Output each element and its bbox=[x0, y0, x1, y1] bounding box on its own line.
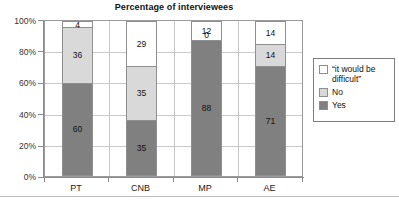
bar-label-cnb-no: 35 bbox=[137, 89, 146, 98]
bar-label-ae-no: 14 bbox=[266, 51, 275, 60]
legend-label-no: No bbox=[332, 87, 343, 97]
bar-label-pt-yes: 60 bbox=[73, 125, 82, 134]
y-tick-label-80: 80% bbox=[0, 47, 36, 57]
bar-label-mp-no: 0 bbox=[204, 31, 209, 40]
y-tick-label-60: 60% bbox=[0, 78, 36, 88]
bar-label-ae-yes: 71 bbox=[266, 117, 275, 126]
bar-segment-ae-no[interactable]: 14 bbox=[255, 44, 286, 66]
plot-area: 4 36 60 29 35 35 12 0 bbox=[44, 20, 303, 177]
y-tick-label-20: 20% bbox=[0, 141, 36, 151]
legend-item-no[interactable]: No bbox=[319, 87, 390, 97]
legend-item-yes[interactable]: Yes bbox=[319, 100, 390, 110]
bar-stack-ae[interactable]: 14 14 71 bbox=[255, 21, 286, 176]
bar-label-mp-yes: 88 bbox=[202, 104, 211, 113]
bar-segment-mp-difficult[interactable]: 12 0 bbox=[191, 21, 222, 40]
x-tick-label-ae: AE bbox=[237, 183, 302, 193]
legend-swatch-yes-icon bbox=[319, 101, 328, 110]
legend: “it would be difficult” No Yes bbox=[313, 58, 395, 122]
x-tick-mark-1 bbox=[108, 178, 109, 182]
bar-label-cnb-difficult: 29 bbox=[137, 40, 146, 49]
y-axis: 100% 80% 60% 40% 20% 0% bbox=[0, 0, 36, 203]
x-tick-label-mp: MP bbox=[173, 183, 237, 193]
bar-segment-cnb-no[interactable]: 35 bbox=[126, 66, 157, 120]
figure-baseline bbox=[0, 196, 399, 197]
x-tick-label-pt: PT bbox=[44, 183, 108, 193]
bar-segment-pt-yes[interactable]: 60 bbox=[62, 83, 93, 176]
bar-label-pt-no: 36 bbox=[73, 51, 82, 60]
bar-segment-pt-no[interactable]: 36 bbox=[62, 27, 93, 83]
category-separator-1 bbox=[109, 21, 110, 176]
bar-stack-pt[interactable]: 4 36 60 bbox=[62, 21, 93, 176]
x-tick-label-cnb: CNB bbox=[108, 183, 173, 193]
stacked-bar-chart: Percentage of interviewees 100% 80% 60% … bbox=[0, 0, 399, 203]
x-tick-mark-3 bbox=[237, 178, 238, 182]
bar-label-ae-difficult: 14 bbox=[266, 29, 275, 38]
bar-segment-mp-yes[interactable]: 88 bbox=[191, 40, 222, 176]
legend-swatch-no-icon bbox=[319, 88, 328, 97]
bar-segment-cnb-difficult[interactable]: 29 bbox=[126, 21, 157, 66]
legend-label-difficult: “it would be difficult” bbox=[332, 64, 390, 84]
chart-title: Percentage of interviewees bbox=[44, 2, 304, 12]
y-tick-label-40: 40% bbox=[0, 110, 36, 120]
y-tick-label-100: 100% bbox=[0, 16, 36, 26]
bar-stack-cnb[interactable]: 29 35 35 bbox=[126, 21, 157, 176]
x-tick-mark-2 bbox=[173, 178, 174, 182]
legend-swatch-difficult-icon bbox=[319, 65, 328, 74]
bar-label-cnb-yes: 35 bbox=[137, 144, 146, 153]
bar-label-pt-difficult: 4 bbox=[75, 21, 80, 30]
category-separator-2 bbox=[174, 21, 175, 176]
category-separator-3 bbox=[238, 21, 239, 176]
bar-segment-cnb-yes[interactable]: 35 bbox=[126, 120, 157, 176]
bar-segment-ae-difficult[interactable]: 14 bbox=[255, 21, 286, 44]
legend-label-yes: Yes bbox=[332, 100, 346, 110]
bar-stack-mp[interactable]: 12 0 88 bbox=[191, 21, 222, 176]
legend-item-difficult[interactable]: “it would be difficult” bbox=[319, 64, 390, 84]
bar-segment-ae-yes[interactable]: 71 bbox=[255, 66, 286, 176]
x-tick-mark-4 bbox=[302, 178, 303, 182]
y-tick-label-0: 0% bbox=[0, 172, 36, 182]
x-tick-mark-0 bbox=[44, 178, 45, 182]
